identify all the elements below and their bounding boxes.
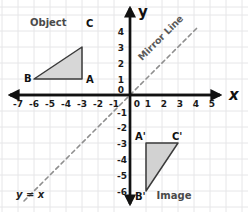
y-tick: 1: [118, 75, 124, 85]
vertex-label-c: C: [86, 18, 93, 29]
y-tick: -4: [117, 155, 127, 165]
y-tick: 3: [118, 43, 124, 53]
x-tick: -4: [61, 99, 71, 109]
y-tick-origin: 0: [118, 85, 124, 95]
vertex-label-b: B: [24, 73, 32, 84]
x-tick: 2: [161, 99, 167, 109]
y-axis-label: y: [138, 3, 148, 21]
vertex-label-a: A: [86, 74, 94, 85]
object-label: Object: [30, 17, 67, 28]
x-tick: -6: [29, 99, 39, 109]
y-tick: -3: [117, 139, 127, 149]
x-tick: 4: [193, 99, 199, 109]
coordinate-plane-figure: x y -7 -6 -5 -4 -3 -2 -1 0 1 2 3 4 5 4 3…: [0, 0, 248, 212]
vertex-label-a-prime: A': [135, 131, 146, 142]
equation-label: y = x: [16, 189, 45, 200]
y-tick: 4: [118, 27, 124, 37]
vertex-label-c-prime: C': [172, 131, 182, 142]
x-tick: 3: [177, 99, 183, 109]
y-tick: -5: [117, 171, 127, 181]
image-label: Image: [157, 190, 192, 201]
x-tick: -3: [77, 99, 87, 109]
x-tick: 1: [145, 99, 151, 109]
y-tick: 2: [118, 59, 124, 69]
y-tick: -1: [117, 108, 127, 118]
y-tick: -2: [117, 123, 127, 133]
x-tick: -5: [45, 99, 55, 109]
x-axis-label: x: [228, 86, 240, 104]
x-tick: -2: [93, 99, 103, 109]
x-tick: 5: [209, 99, 215, 109]
x-tick: 0: [134, 99, 140, 109]
x-tick: -7: [13, 99, 23, 109]
y-tick: -6: [117, 187, 127, 197]
vertex-label-b-prime: B': [135, 191, 146, 202]
graph-canvas: x y -7 -6 -5 -4 -3 -2 -1 0 1 2 3 4 5 4 3…: [0, 0, 248, 212]
